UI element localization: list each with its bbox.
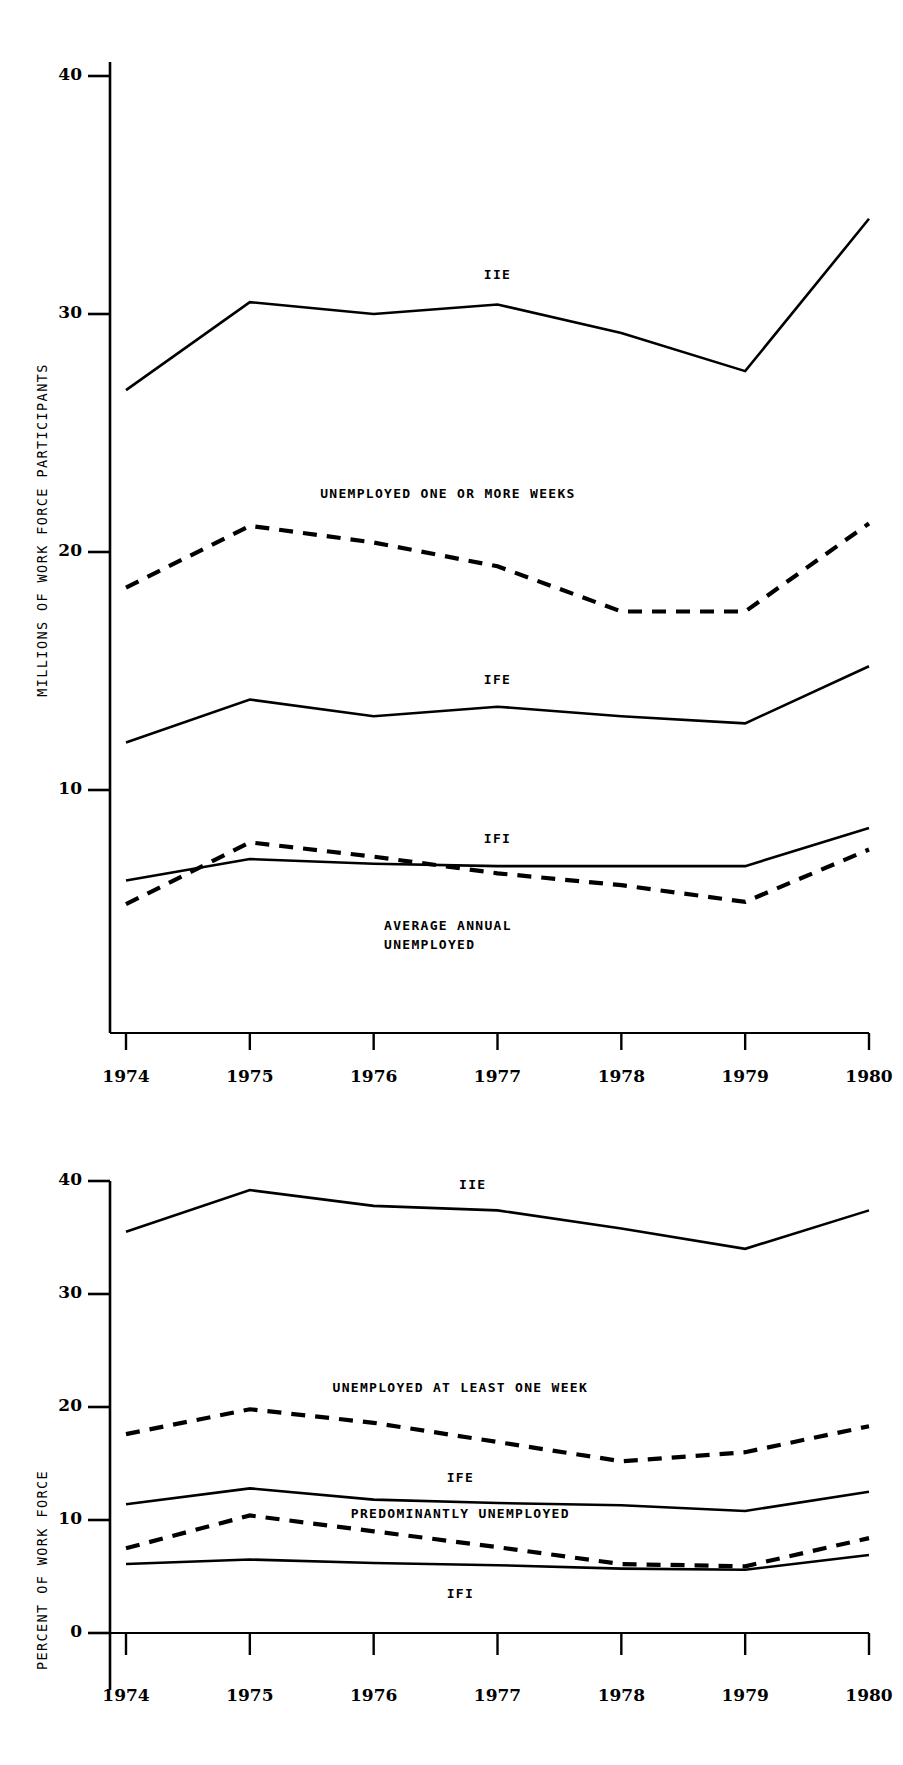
- plot-area-chart2: [0, 1090, 903, 1765]
- y-tick-label: 30: [42, 302, 82, 322]
- x-tick-label: 1978: [591, 1685, 651, 1705]
- series-label-ife: IFE: [447, 1470, 474, 1485]
- series-label-ifi: IFI: [484, 831, 511, 846]
- x-tick-label: 1979: [715, 1066, 775, 1086]
- x-tick-label: 1976: [344, 1066, 404, 1086]
- series-line-unemployed-one-or-more-weeks: [126, 523, 869, 611]
- series-line-iie: [126, 1190, 869, 1249]
- x-tick-label: 1974: [96, 1685, 156, 1705]
- x-tick-label: 1978: [591, 1066, 651, 1086]
- series-label-predominantly-unemployed: PREDOMINANTLY UNEMPLOYED: [351, 1506, 570, 1521]
- x-tick-label: 1980: [839, 1685, 899, 1705]
- x-tick-label: 1974: [96, 1066, 156, 1086]
- series-line-ifi: [126, 1555, 869, 1570]
- x-tick-label: 1979: [715, 1685, 775, 1705]
- y-tick-label: 40: [42, 1169, 82, 1189]
- y-tick-label: 20: [42, 1395, 82, 1415]
- series-label-unemployed-one-or-more-weeks: UNEMPLOYED ONE OR MORE WEEKS: [320, 486, 576, 501]
- x-tick-label: 1976: [344, 1685, 404, 1705]
- figure-percent-of-work-force: PERCENT OF WORK FORCE 010203040197419751…: [0, 1090, 903, 1765]
- series-line-average-annual-unemployed: [126, 842, 869, 904]
- x-tick-label: 1975: [220, 1685, 280, 1705]
- x-tick-label: 1975: [220, 1066, 280, 1086]
- series-label-ifi: IFI: [447, 1586, 474, 1601]
- series-label-line-1: AVERAGE ANNUAL: [384, 917, 512, 936]
- series-label-average-annual-unemployed: AVERAGE ANNUALUNEMPLOYED: [384, 917, 512, 955]
- y-tick-label: 40: [42, 64, 82, 84]
- series-label-line-2: UNEMPLOYED: [384, 936, 512, 955]
- y-tick-label: 0: [42, 1621, 82, 1641]
- y-tick-label: 10: [42, 1508, 82, 1528]
- series-label-iie: IIE: [459, 1177, 486, 1192]
- x-tick-label: 1980: [839, 1066, 899, 1086]
- y-tick-label: 20: [42, 540, 82, 560]
- figure-millions-of-work-force-participants: MILLIONS OF WORK FORCE PARTICIPANTS 1020…: [0, 0, 903, 1090]
- y-tick-label: 10: [42, 778, 82, 798]
- series-label-ife: IFE: [484, 672, 511, 687]
- x-tick-label: 1977: [468, 1685, 528, 1705]
- series-line-iie: [126, 219, 869, 390]
- y-tick-label: 30: [42, 1282, 82, 1302]
- series-line-unemployed-at-least-one-week: [126, 1409, 869, 1461]
- x-tick-label: 1977: [468, 1066, 528, 1086]
- series-label-iie: IIE: [484, 267, 511, 282]
- series-label-unemployed-at-least-one-week: UNEMPLOYED AT LEAST ONE WEEK: [333, 1380, 589, 1395]
